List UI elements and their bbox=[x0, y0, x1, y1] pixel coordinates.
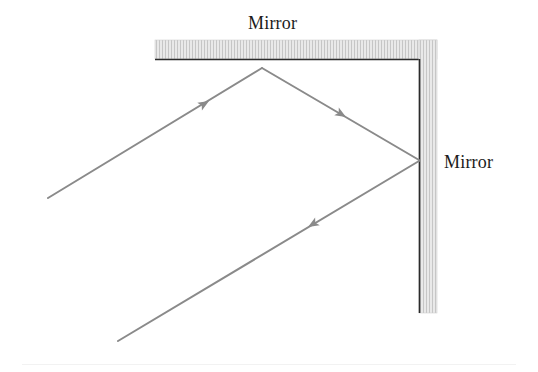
ray-path bbox=[48, 68, 419, 341]
figure-canvas: Mirror Mirror bbox=[0, 0, 538, 372]
second-reflected-ray bbox=[118, 161, 419, 341]
top-mirror-label: Mirror bbox=[248, 13, 297, 34]
bottom-divider bbox=[22, 364, 516, 365]
first-reflected-ray-arrow-icon bbox=[334, 108, 348, 121]
right-mirror-label: Mirror bbox=[444, 152, 493, 173]
incident-ray bbox=[48, 68, 262, 198]
ray-diagram bbox=[0, 0, 538, 372]
right-mirror bbox=[419, 40, 437, 313]
second-reflected-ray-arrow-icon bbox=[306, 217, 320, 230]
right-mirror-body bbox=[419, 40, 437, 313]
top-mirror bbox=[155, 40, 437, 60]
ray-arrowheads bbox=[197, 97, 348, 231]
top-mirror-body bbox=[155, 40, 437, 59]
